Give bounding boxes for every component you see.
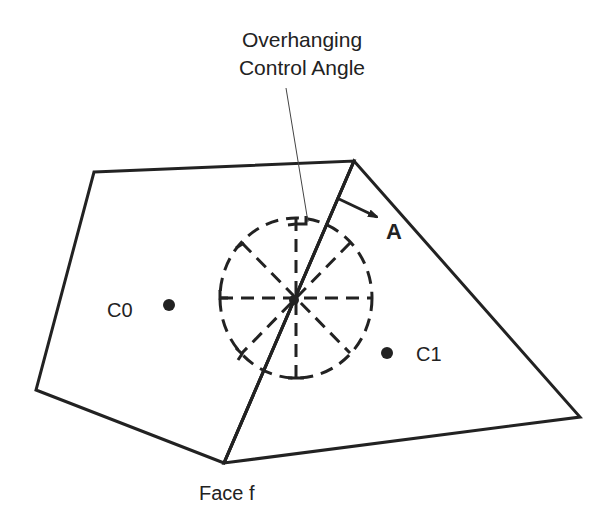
left-cell bbox=[36, 161, 354, 463]
title-line-2: Control Angle bbox=[239, 56, 365, 79]
c1-label: C1 bbox=[416, 343, 442, 365]
c0-point bbox=[163, 299, 175, 311]
c0-label: C0 bbox=[107, 299, 133, 321]
face-line bbox=[224, 161, 354, 463]
face-label: Face f bbox=[199, 482, 255, 504]
face-center-point bbox=[289, 295, 299, 305]
leader-line bbox=[286, 88, 308, 222]
diagram-canvas: Overhanging Control Angle A C0 C1 Face f bbox=[0, 0, 613, 525]
direction-arrow bbox=[339, 199, 377, 217]
c1-point bbox=[381, 347, 393, 359]
title-line-1: Overhanging bbox=[242, 28, 362, 51]
right-cell bbox=[224, 161, 580, 463]
direction-label: A bbox=[386, 219, 402, 244]
